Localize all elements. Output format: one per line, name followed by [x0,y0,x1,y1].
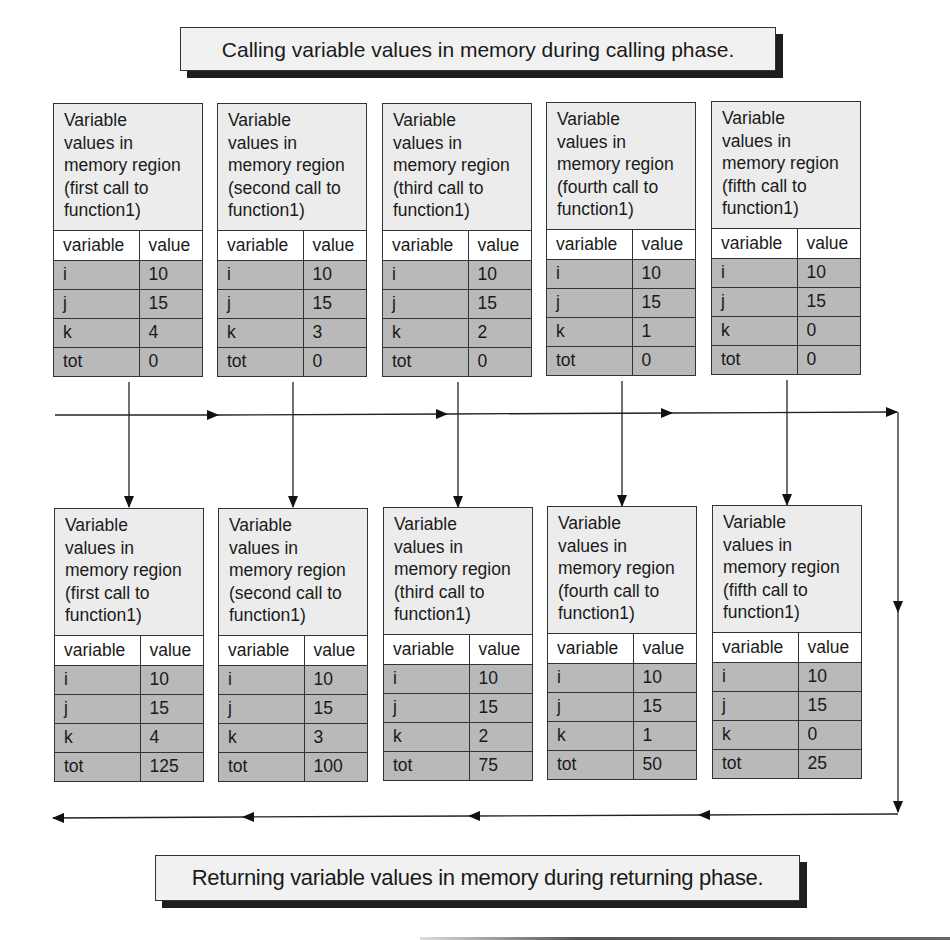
title-line: (fifth call to [722,175,860,198]
column-header-variable: variable [218,231,303,260]
calling-frame-4: Variable values in memory region (fourth… [546,102,696,376]
variable-value: 15 [797,287,860,316]
variable-value: 10 [140,665,203,694]
column-header-variable: variable [384,635,469,664]
title-line: function1) [229,604,367,627]
variable-value: 0 [303,347,366,376]
title-line: Variable [64,109,202,132]
variable-table: variablevalue i10 j15 k4 tot0 [54,231,202,376]
returning-frame-5: Variable values in memory region (fifth … [712,505,862,779]
title-line: memory region [228,154,366,177]
title-line: memory region [722,152,860,175]
variable-name: k [547,317,632,346]
variable-value: 3 [304,723,367,752]
variable-name: i [218,260,303,289]
call-flow-arrow-4 [672,412,897,413]
variable-name: tot [218,347,303,376]
title-line: memory region [393,154,531,177]
variable-value: 10 [469,664,532,693]
table-row: i10 [218,260,366,289]
title-line: values in [557,131,695,154]
table-header-row: variablevalue [219,636,367,665]
column-header-variable: variable [712,229,797,258]
return-flow-arrow-4 [53,817,243,818]
variable-table: variablevalue i10 j15 k3 tot100 [219,636,367,781]
variable-name: tot [54,347,139,376]
column-header-value: value [469,635,532,664]
variable-value: 4 [140,723,203,752]
variable-value: 15 [633,692,696,721]
table-row: j15 [547,288,695,317]
title-line: (fifth call to [723,579,861,602]
frame-title: Variable values in memory region (fifth … [712,102,860,229]
column-header-variable: variable [547,230,632,259]
variable-value: 15 [798,691,861,720]
variable-value: 15 [140,694,203,723]
table-row: k4 [55,723,203,752]
table-row: j15 [219,694,367,723]
table-header-row: variablevalue [713,633,861,662]
returning-frame-3: Variable values in memory region (third … [383,507,533,781]
variable-name: j [712,287,797,316]
variable-name: tot [713,749,798,778]
title-line: Variable [228,109,366,132]
variable-name: j [55,694,140,723]
title-line: (third call to [394,581,532,604]
title-line: (fourth call to [557,176,695,199]
table-row: tot50 [548,750,696,779]
frame-title: Variable values in memory region (fourth… [547,103,695,230]
variable-name: tot [547,346,632,375]
table-row: k1 [547,317,695,346]
table-row: j15 [712,287,860,316]
variable-value: 15 [303,289,366,318]
variable-name: j [547,288,632,317]
variable-value: 10 [304,665,367,694]
variable-name: j [548,692,633,721]
variable-name: i [54,260,139,289]
table-row: k3 [218,318,366,347]
variable-table: variablevalue i10 j15 k2 tot75 [384,635,532,780]
call-flow-arrow-3 [447,413,672,414]
title-line: (fourth call to [558,580,696,603]
variable-name: tot [55,752,140,781]
title-line: values in [558,535,696,558]
title-line: values in [723,534,861,557]
variable-value: 10 [798,662,861,691]
title-line: Variable [393,109,531,132]
title-line: values in [393,132,531,155]
variable-name: k [218,318,303,347]
variable-value: 15 [468,289,531,318]
returning-phase-caption-text: Returning variable values in memory duri… [192,867,764,889]
table-row: i10 [547,259,695,288]
title-line: (third call to [393,177,531,200]
variable-value: 125 [140,752,203,781]
title-line: memory region [558,557,696,580]
return-flow-arrow-1 [699,814,898,815]
variable-value: 0 [797,345,860,374]
table-row: k2 [383,318,531,347]
variable-name: j [218,289,303,318]
title-line: values in [64,132,202,155]
table-header-row: variablevalue [218,231,366,260]
table-row: i10 [383,260,531,289]
frame-title: Variable values in memory region (fourth… [548,507,696,634]
title-line: Variable [229,514,367,537]
column-header-value: value [304,636,367,665]
variable-name: i [713,662,798,691]
return-flow-arrow-3 [243,816,469,817]
column-header-variable: variable [548,634,633,663]
variable-name: k [383,318,468,347]
variable-name: i [548,663,633,692]
variable-value: 4 [139,318,202,347]
variable-value: 10 [468,260,531,289]
column-header-variable: variable [383,231,468,260]
frame-title: Variable values in memory region (first … [54,104,202,231]
table-row: tot100 [219,752,367,781]
variable-name: k [548,721,633,750]
variable-value: 10 [632,259,695,288]
variable-name: j [54,289,139,318]
returning-frame-1: Variable values in memory region (first … [54,508,204,782]
column-header-variable: variable [54,231,139,260]
table-row: j15 [383,289,531,318]
table-header-row: variablevalue [54,231,202,260]
